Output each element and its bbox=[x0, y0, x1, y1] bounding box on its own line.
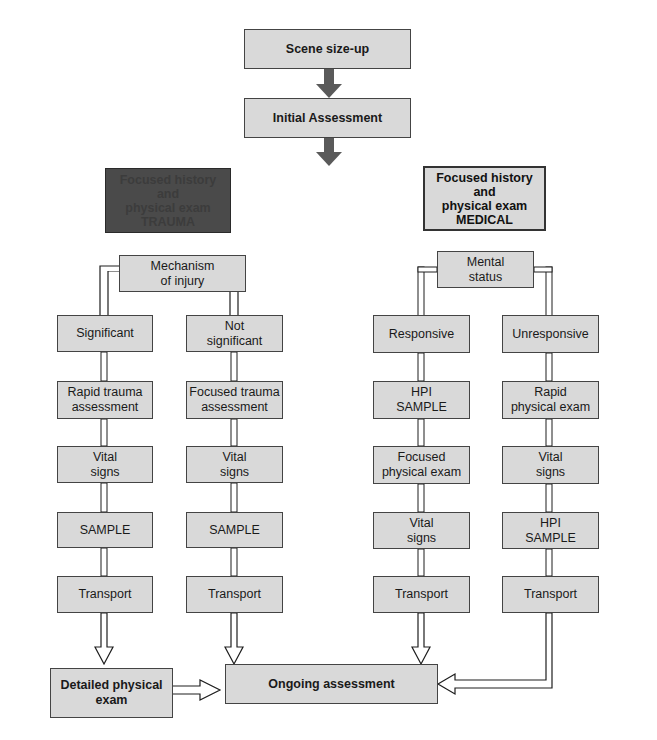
medical-header: Focused history and physical exam MEDICA… bbox=[423, 166, 546, 231]
medical-step-unresponsive: Unresponsive bbox=[502, 315, 599, 353]
detailed-physical-exam-box: Detailed physical exam bbox=[50, 668, 173, 718]
trauma-step-transport-1: Transport bbox=[57, 576, 153, 613]
medical-step-transport-1: Transport bbox=[373, 576, 470, 613]
trauma-step-sample-2: SAMPLE bbox=[186, 512, 283, 548]
medical-step-responsive: Responsive bbox=[373, 315, 470, 353]
hollow-arrow-unresponsive-to-ongoing bbox=[438, 613, 552, 694]
trauma-step-not-significant: Not significant bbox=[186, 315, 283, 352]
medical-step-vital-signs: Vital signs bbox=[373, 512, 470, 549]
mental-status-box: Mental status bbox=[437, 251, 534, 288]
hollow-arrow-trauma-to-ongoing bbox=[225, 613, 243, 664]
medical-step-focused-physical-exam: Focused physical exam bbox=[373, 446, 470, 484]
medical-step-hpi-sample-2: HPI SAMPLE bbox=[502, 512, 599, 549]
trauma-step-transport-2: Transport bbox=[186, 576, 283, 613]
medical-step-rapid-physical-exam: Rapid physical exam bbox=[502, 381, 599, 419]
trauma-step-significant: Significant bbox=[57, 315, 153, 352]
mechanism-of-injury-box: Mechanism of injury bbox=[119, 255, 246, 292]
hollow-arrow-to-detailed bbox=[95, 613, 113, 664]
trauma-step-vital-signs-2: Vital signs bbox=[186, 446, 283, 483]
scene-size-up-box: Scene size-up bbox=[244, 29, 411, 69]
ongoing-assessment-box: Ongoing assessment bbox=[225, 664, 438, 704]
medical-step-transport-2: Transport bbox=[502, 576, 599, 613]
trauma-step-rapid-trauma-assessment: Rapid trauma assessment bbox=[57, 381, 153, 419]
medical-step-vital-signs-2: Vital signs bbox=[502, 446, 599, 484]
trauma-step-focused-trauma-assessment: Focused trauma assessment bbox=[186, 381, 283, 419]
trauma-header: Focused history and physical exam TRAUMA bbox=[105, 168, 231, 233]
trauma-step-sample-1: SAMPLE bbox=[57, 512, 153, 548]
solid-arrow-scene-to-initial bbox=[316, 68, 342, 98]
initial-assessment-box: Initial Assessment bbox=[244, 98, 411, 138]
hollow-arrow-medical-to-ongoing bbox=[412, 613, 430, 664]
solid-arrow-initial-to-focused bbox=[316, 138, 342, 166]
hollow-arrow-detailed-to-ongoing bbox=[172, 680, 220, 700]
trauma-step-vital-signs-1: Vital signs bbox=[57, 446, 153, 483]
medical-step-hpi-sample: HPI SAMPLE bbox=[373, 381, 470, 419]
